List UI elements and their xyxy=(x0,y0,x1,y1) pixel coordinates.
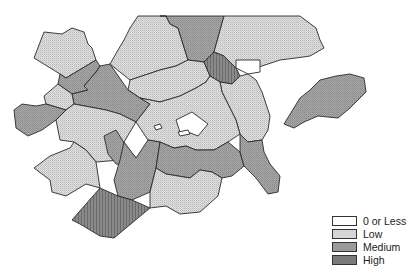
region-eastern-shore-medium[interactable] xyxy=(284,74,366,128)
legend-swatch-zero-or-less xyxy=(332,216,357,226)
region-peninsula-medium[interactable] xyxy=(240,134,280,194)
legend-item-low: Low xyxy=(332,227,406,240)
legend-item-zero-or-less: 0 or Less xyxy=(332,214,406,227)
legend-label: High xyxy=(363,254,385,266)
legend-label: 0 or Less xyxy=(363,215,406,227)
map-legend: 0 or Less Low Medium High xyxy=(332,214,406,266)
legend-swatch-medium xyxy=(332,242,357,252)
region-northeast-zero[interactable] xyxy=(236,60,260,74)
legend-swatch-high xyxy=(332,255,357,265)
legend-label: Medium xyxy=(363,241,400,253)
legend-item-high: High xyxy=(332,253,406,266)
legend-swatch-low xyxy=(332,229,357,239)
legend-item-medium: Medium xyxy=(332,240,406,253)
legend-label: Low xyxy=(363,228,382,240)
